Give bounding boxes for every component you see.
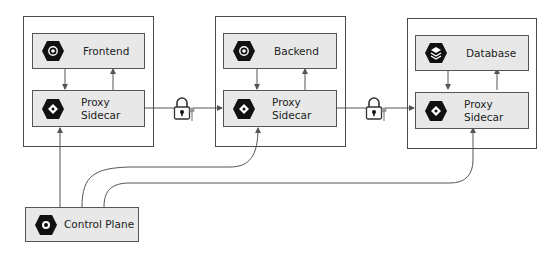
service-label: Frontend: [83, 45, 129, 58]
backend-service[interactable]: Backend: [223, 33, 337, 69]
lock-key-icon: [172, 96, 196, 124]
gear-hex-icon: [41, 40, 65, 62]
backend-proxy-sidecar[interactable]: ProxySidecar: [223, 90, 337, 127]
diamond-hex-icon: [41, 98, 65, 120]
control-plane[interactable]: Control Plane: [25, 207, 139, 242]
diamond-hex-icon: [424, 100, 448, 122]
sidecar-label-line1: Proxy: [272, 96, 311, 109]
sidecar-label-line2: Sidecar: [272, 109, 311, 122]
diamond-hex-icon: [232, 98, 256, 120]
sidecar-label-line2: Sidecar: [81, 109, 120, 122]
sidecar-label-line2: Sidecar: [464, 111, 503, 124]
sidecar-label-line1: Proxy: [81, 96, 120, 109]
database-service[interactable]: Database: [415, 35, 529, 71]
control-plane-label: Control Plane: [64, 218, 134, 231]
frontend-service[interactable]: Frontend: [32, 33, 145, 69]
frontend-proxy-sidecar[interactable]: ProxySidecar: [32, 90, 145, 127]
service-label: Database: [466, 47, 516, 60]
lock-key-icon: [364, 96, 388, 124]
nut-hex-icon: [34, 214, 58, 236]
stack-hex-icon: [424, 42, 448, 64]
database-proxy-sidecar[interactable]: ProxySidecar: [415, 92, 529, 129]
gear-hex-icon: [232, 40, 256, 62]
sidecar-label-line1: Proxy: [464, 98, 503, 111]
service-label: Backend: [274, 45, 319, 58]
